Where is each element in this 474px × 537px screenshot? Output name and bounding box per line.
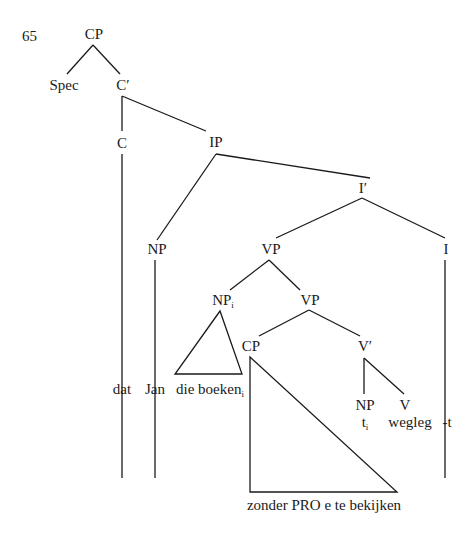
node-i-bar: I′ [359,180,367,196]
leaf-die-boeken-index: i [241,389,244,399]
node-np-i-label: NP [212,292,231,308]
node-v-bar: V′ [358,338,372,354]
leaf-trace: ti [362,414,369,435]
node-vp-upper: VP [261,241,280,257]
leaf-affix-t: -t [442,414,451,430]
leaf-die-boeken-text: die boeken [176,381,241,397]
leaf-jan: Jan [145,381,165,397]
node-ip: IP [209,134,222,150]
example-number: 65 [22,28,37,45]
node-vp-lower: VP [300,292,319,308]
node-np-subject: NP [147,241,166,257]
node-c: C [117,135,127,151]
node-v: V [400,397,411,413]
leaf-dat: dat [113,381,131,397]
leaf-die-boeken: die boekeni [176,381,244,402]
node-cp-root: CP [85,26,103,42]
node-i: I [444,241,449,257]
node-np-i: NPi [212,292,234,313]
leaf-wegleg: wegleg [388,414,431,430]
node-np-trace: NP [355,397,374,413]
leaf-cp-content: zonder PRO e te bekijken [247,497,401,513]
node-c-bar: C′ [116,77,129,93]
node-np-i-index: i [231,300,234,310]
node-cp-adjunct: CP [242,338,260,354]
node-spec: Spec [49,77,78,93]
leaf-trace-index: i [366,422,369,432]
